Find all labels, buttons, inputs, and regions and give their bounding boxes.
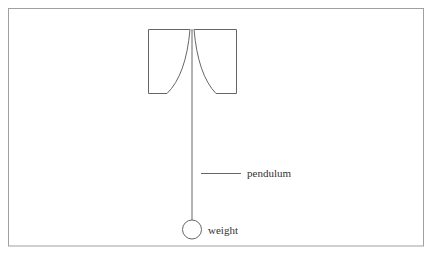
pendulum-label: pendulum bbox=[247, 167, 291, 179]
pendulum-diagram: pendulum weight bbox=[0, 0, 433, 255]
weight-bob bbox=[183, 220, 202, 239]
right-clamp-block bbox=[194, 30, 237, 94]
diagram-frame bbox=[9, 9, 424, 247]
left-clamp-block bbox=[149, 30, 191, 94]
weight-label: weight bbox=[208, 224, 238, 236]
